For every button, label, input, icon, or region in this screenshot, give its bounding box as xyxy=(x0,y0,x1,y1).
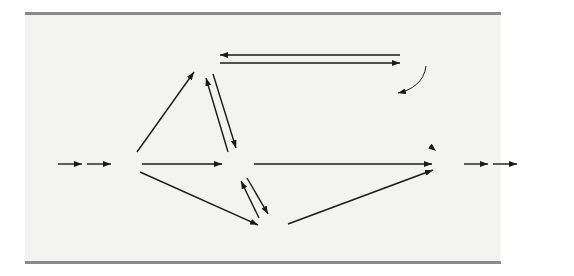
edge-1-2 xyxy=(137,72,194,152)
edge-3-5 xyxy=(247,178,268,214)
annotation-pointer xyxy=(398,66,426,93)
edge-1-5 xyxy=(140,172,258,225)
edge-5-6 xyxy=(288,170,433,224)
network-diagram xyxy=(0,0,574,276)
edge-5-3 xyxy=(241,181,259,218)
